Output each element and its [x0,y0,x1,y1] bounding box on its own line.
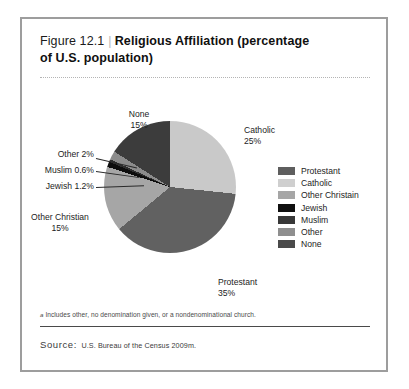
slice-label-jewish: Jewish 1.2% [22,181,94,192]
slice-label-none: None 15% [115,109,163,130]
legend-label: Other Christain [301,190,359,200]
legend-label: Catholic [301,178,332,188]
legend-swatch [278,216,295,224]
slice-label-jewish-name: Jewish 1.2% [46,181,94,191]
footnote-marker: a [40,311,44,318]
slice-label-protestant-name: Protestant [218,277,257,287]
legend-swatch [278,204,295,212]
legend-swatch [278,179,295,187]
slice-label-other-name: Other 2% [58,149,94,159]
legend-item: Other [278,226,382,238]
figure-title-part-2: of U.S. population) [40,51,153,65]
slice-label-catholic-name: Catholic [244,125,275,135]
figure-title-part-1: Religious Affiliation (percentage [115,34,310,48]
title-divider [40,77,370,79]
figure-title-line-2: of U.S. population) [40,50,370,67]
slice-label-other: Other 2% [28,149,94,160]
figure-source: Source: U.S. Bureau of the Census 2009m. [40,334,370,352]
figure-footnote: a Includes other, no denomination given,… [40,311,370,318]
figure-title-line-1: Figure 12.1|Religious Affiliation (perce… [40,33,370,50]
slice-label-catholic: Catholic 25% [244,125,304,146]
source-divider [40,326,370,327]
legend-label: Jewish [301,203,327,213]
legend-label: Other [301,227,323,237]
slice-label-protestant: Protestant 35% [218,277,284,298]
figure-title-separator: | [104,33,114,50]
pie-chart-area: None 15% Other 2% Muslim 0.6% Jewish 1.2… [22,81,390,303]
slice-label-muslim-name: Muslim 0.6% [45,165,94,175]
slice-label-other-christian-value: 15% [23,223,97,234]
slice-label-none-value: 15% [115,120,163,131]
slice-label-protestant-value: 35% [218,288,284,299]
legend-item: Muslim [278,214,382,226]
figure-frame: Figure 12.1|Religious Affiliation (perce… [20,17,388,372]
source-text: U.S. Bureau of the Census 2009m. [81,341,196,350]
legend-item: Other Christain [278,189,382,201]
legend-swatch [278,240,295,248]
slice-label-catholic-value: 25% [244,136,304,147]
legend-swatch [278,228,295,236]
chart-legend: ProtestantCatholicOther ChristainJewishM… [278,165,382,250]
legend-swatch [278,167,295,175]
footnote-text: Includes other, no denomination given, o… [45,311,256,318]
legend-item: Catholic [278,177,382,189]
legend-swatch [278,191,295,199]
legend-item: Jewish [278,202,382,214]
legend-label: Protestant [301,166,340,176]
figure-header: Figure 12.1|Religious Affiliation (perce… [40,33,370,67]
legend-label: None [301,239,322,249]
slice-label-none-name: None [129,109,150,119]
slice-label-muslim: Muslim 0.6% [22,165,94,176]
figure-number: Figure 12.1 [40,34,104,48]
legend-item: None [278,238,382,250]
legend-label: Muslim [301,215,328,225]
slice-label-other-christian-name: Other Christian [31,212,89,222]
source-label: Source: [40,339,77,350]
legend-item: Protestant [278,165,382,177]
slice-label-other-christian: Other Christian 15% [23,212,97,233]
